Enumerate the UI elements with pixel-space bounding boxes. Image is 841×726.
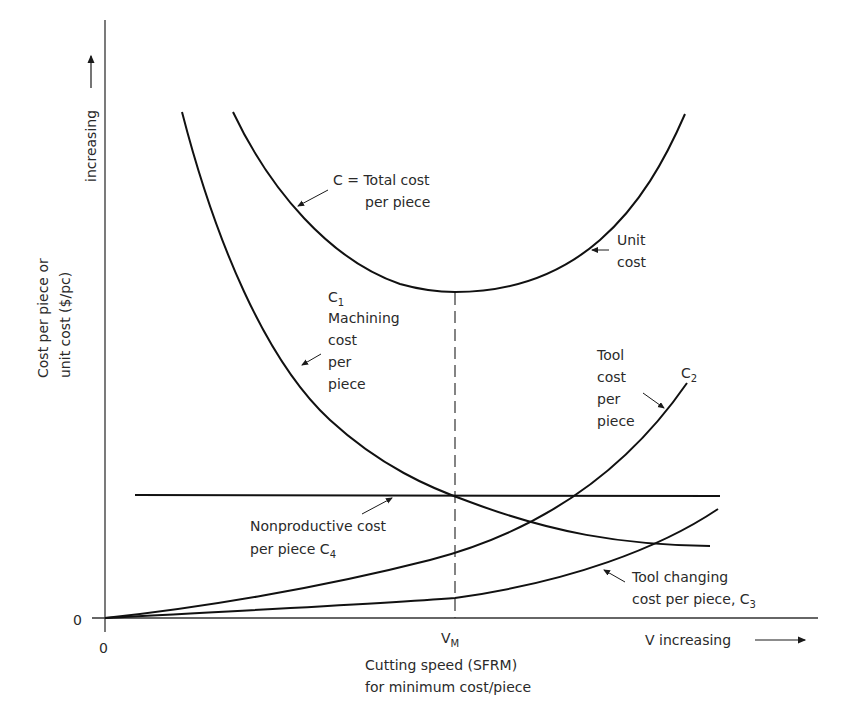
nonproductive-label-line1: Nonproductive cost [250, 518, 387, 534]
tool-cost-label-line4: piece [597, 413, 635, 429]
c1-pointer-arrow-icon [302, 354, 321, 365]
c1-label: C1 [328, 289, 344, 308]
y-zero-label: 0 [73, 612, 82, 628]
total-cost-label-line1: C = Total cost [333, 172, 430, 188]
total-cost-label-line2: per piece [365, 194, 430, 210]
unit-cost-label-line2: cost [617, 254, 647, 270]
y-axis-title-line1: Cost per piece or [35, 258, 51, 378]
c2-label: C2 [681, 365, 697, 384]
y-axis-title-line2: unit cost ($/pc) [57, 272, 73, 378]
curve-c1-machining [182, 112, 710, 546]
tool-changing-pointer-arrow-icon [604, 570, 625, 582]
tool-cost-label-line1: Tool [596, 347, 624, 363]
c1-label-line1: Machining [328, 310, 400, 326]
x-zero-label: 0 [99, 640, 108, 656]
x-increasing-label: V increasing [645, 632, 731, 648]
x-axis-title-line2: for minimum cost/piece [365, 679, 531, 695]
tool-cost-label-line3: per [597, 391, 621, 407]
curve-c4-nonproductive [135, 495, 720, 496]
tool-changing-label-line2: cost per piece, C3 [632, 591, 756, 610]
c1-label-line4: piece [328, 376, 366, 392]
nonproductive-label-line2: per piece C4 [250, 541, 336, 560]
unit-cost-label-line1: Unit [617, 232, 646, 248]
vm-label: VM [441, 630, 459, 649]
curve-c3-tool-changing [105, 509, 718, 618]
tool-cost-label-line2: cost [597, 369, 627, 385]
c1-label-line3: per [328, 354, 352, 370]
tool-cost-pointer-arrow-icon [643, 393, 664, 408]
total-cost-pointer-arrow-icon [298, 190, 328, 206]
nonproductive-pointer-arrow-icon [362, 498, 392, 514]
cost-vs-cutting-speed-diagram: increasing Cost per piece or unit cost (… [0, 0, 841, 726]
c1-label-line2: cost [328, 332, 358, 348]
y-increasing-label: increasing [83, 110, 99, 182]
x-axis-title-line1: Cutting speed (SFRM) [365, 657, 517, 673]
tool-changing-label-line1: Tool changing [631, 569, 728, 585]
